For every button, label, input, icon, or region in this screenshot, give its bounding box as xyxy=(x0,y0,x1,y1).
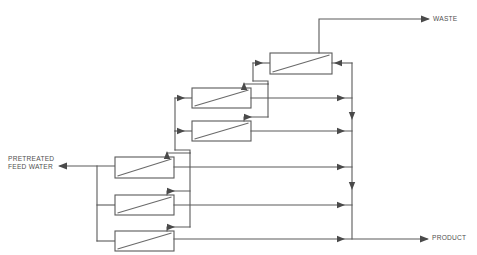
product-label: PRODUCT xyxy=(432,234,466,242)
module-4[interactable] xyxy=(192,88,251,108)
module-2-concentrate-arrow-icon xyxy=(167,188,175,194)
waste-label: WASTE xyxy=(433,15,457,23)
module-3-concentrate-arrow-icon xyxy=(167,224,175,230)
module-4-concentrate-arrow-icon xyxy=(241,82,247,90)
module-5-concentrate-arrow-icon xyxy=(244,114,252,120)
permeate-network xyxy=(174,60,355,239)
module-3[interactable] xyxy=(115,231,174,251)
feed-water-label-line1: PRETREATED xyxy=(8,155,54,162)
stage3-feed-arrow-icon xyxy=(255,60,263,66)
module-2[interactable] xyxy=(115,195,174,215)
module-2-permeate-arrow-icon xyxy=(337,202,345,208)
feed-water-label: PRETREATEDFEED WATER xyxy=(8,155,54,172)
module-5[interactable] xyxy=(192,121,251,141)
waste-arrow-icon xyxy=(421,16,430,23)
module-5-permeate-arrow-icon xyxy=(337,128,345,134)
feed-inlet-stream xyxy=(58,163,115,241)
collector-flow-arrow-upper-icon xyxy=(349,112,355,120)
stage2-feed-arrow-4-icon xyxy=(177,95,185,101)
module-6[interactable] xyxy=(270,53,332,74)
flow-diagram-canvas xyxy=(0,0,477,255)
module-3-permeate-arrow-icon xyxy=(337,236,345,242)
collector-flow-arrow-lower-icon xyxy=(349,182,355,190)
module-1-concentrate-line xyxy=(167,153,190,157)
module-6-permeate-arrow-icon xyxy=(334,60,342,66)
waste-line xyxy=(319,19,428,53)
feed-water-label-line2: FEED WATER xyxy=(8,163,53,170)
process-flow-diagram: PRETREATEDFEED WATER WASTE PRODUCT xyxy=(0,0,477,255)
module-1-concentrate-arrow-icon xyxy=(164,151,170,159)
feed-arrow-icon xyxy=(58,163,67,170)
module-4-concentrate-line xyxy=(244,84,268,88)
product-outlet-stream xyxy=(174,236,429,243)
module-1-permeate-arrow-icon xyxy=(337,164,345,170)
product-arrow-icon xyxy=(420,236,429,243)
module-1[interactable] xyxy=(115,157,174,178)
waste-outlet-stream xyxy=(319,16,430,53)
module-4-permeate-arrow-icon xyxy=(337,95,345,101)
stage2-feed-arrow-5-icon xyxy=(177,128,185,134)
